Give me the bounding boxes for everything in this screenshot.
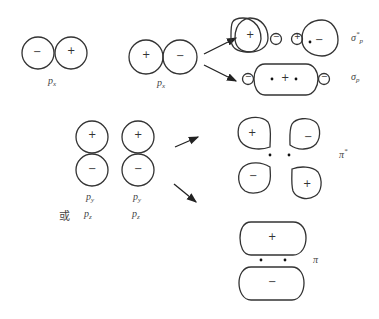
label-px-2: px — [157, 77, 165, 90]
sign-minus: − — [321, 72, 328, 81]
label-sub: y — [91, 196, 94, 204]
label-py-2: py — [133, 191, 141, 204]
label-sup: * — [344, 147, 348, 155]
sign-plus: + — [294, 32, 301, 41]
sign-plus: + — [134, 129, 142, 140]
sign-minus: − — [315, 34, 323, 45]
sign-plus: + — [246, 29, 254, 40]
label-sigma-star: σ*p — [351, 30, 363, 45]
sign-plus: + — [281, 72, 289, 83]
or-text: 或 — [59, 207, 70, 223]
label-sub: x — [53, 80, 56, 88]
sign-minus: − — [33, 46, 41, 57]
label-sub: x — [162, 82, 165, 90]
label-pi: π — [313, 254, 318, 265]
label-sigma: σp — [351, 71, 359, 84]
sign-plus: + — [268, 231, 276, 242]
label-sub: z — [89, 213, 92, 221]
sign-minus: − — [176, 50, 184, 61]
sign-minus: − — [88, 163, 96, 174]
label-pz-2: pz — [132, 208, 140, 221]
label-px-1: px — [48, 75, 56, 88]
label-base: π — [313, 254, 318, 265]
label-pz-1: pz — [84, 208, 92, 221]
label-sub: p — [356, 76, 360, 84]
sign-minus: − — [304, 131, 312, 142]
sign-minus: − — [134, 163, 142, 174]
sign-plus: + — [248, 127, 256, 138]
label-sub: y — [138, 196, 141, 204]
sign-plus: + — [303, 178, 311, 189]
label-sub: z — [137, 213, 140, 221]
sign-minus: − — [268, 276, 276, 287]
sign-minus: − — [245, 72, 252, 81]
sign-plus: + — [142, 49, 150, 60]
label-py-1: py — [86, 191, 94, 204]
sign-minus: − — [249, 170, 257, 181]
sign-plus: + — [88, 129, 96, 140]
sign-minus: − — [273, 32, 280, 41]
label-sub: p — [359, 37, 363, 45]
sign-plus: + — [67, 45, 75, 56]
sign-labels: − + + − + − + − − + − + − + − + − − + + … — [0, 0, 379, 319]
label-pi-star: π* — [339, 147, 348, 160]
